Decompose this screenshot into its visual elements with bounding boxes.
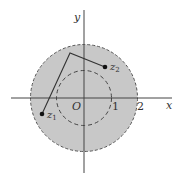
- tick-label-2: 2: [137, 100, 144, 113]
- point-z2: [103, 65, 108, 70]
- point-z1: [40, 112, 45, 117]
- tick-label-1: 1: [112, 100, 119, 113]
- z2-subscript: 2: [115, 66, 119, 74]
- x-axis-label: x: [166, 99, 173, 112]
- origin-label: O: [72, 100, 81, 113]
- z1-subscript: 1: [52, 114, 56, 122]
- y-axis-label: y: [73, 11, 81, 24]
- diagram-canvas: y x O 1 2 z1 z2: [0, 0, 182, 180]
